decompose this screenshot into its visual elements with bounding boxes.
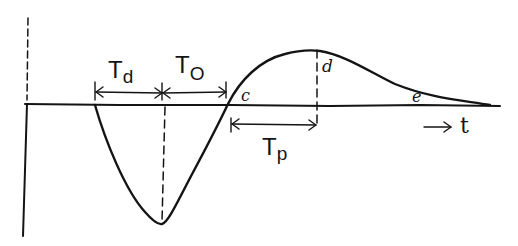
time-axis-label: t	[460, 113, 469, 138]
onset-time-label: TO	[175, 51, 204, 84]
delay-time-label: Td	[108, 56, 133, 87]
waveform-curve	[95, 50, 490, 224]
minimum-marker-line	[162, 107, 165, 222]
vertical-axis	[23, 104, 27, 236]
vertical-axis-dashed	[27, 18, 28, 100]
point-d-label: d	[322, 56, 333, 76]
waveform-diagram: Td TO Tp c d e t	[0, 0, 518, 246]
time-direction-arrow	[424, 122, 451, 132]
peak-time-arrow	[231, 118, 316, 132]
point-e-label: e	[412, 87, 421, 106]
point-c-label: c	[241, 86, 250, 105]
peak-time-label: Tp	[262, 133, 287, 164]
onset-time-arrow	[163, 82, 226, 98]
